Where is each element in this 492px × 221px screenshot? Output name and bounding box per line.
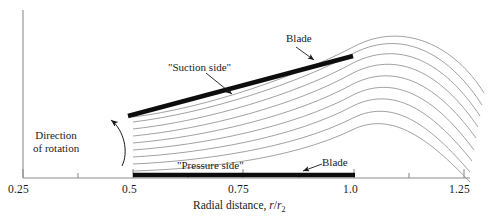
x-tick-label-4: 0.75: [228, 183, 249, 195]
direction-of-rotation-line1: Direction: [33, 129, 79, 142]
suction-side-label: "Suction side": [168, 61, 231, 73]
x-tick-label-2: 0.5: [122, 183, 137, 195]
x-axis-title-text: Radial distance,: [193, 199, 269, 211]
x-tick-label-0: 0.25: [8, 183, 29, 195]
x-tick-label-8: 1.25: [449, 183, 470, 195]
figure-canvas: 0.25 0.5 0.75 1.0 1.25 Radial distance, …: [0, 0, 492, 221]
x-axis-title: Radial distance, r/r2: [193, 199, 286, 214]
blade-bottom-leader-arrow: [303, 164, 322, 171]
direction-of-rotation-label: Direction of rotation: [33, 129, 79, 155]
x-axis-symbol-subscript: 2: [282, 205, 286, 214]
rotation-direction-arrow: [111, 120, 125, 166]
blade-top-label: Blade: [286, 32, 312, 44]
streamline: [133, 87, 474, 150]
blade-top-leader-arrow: [296, 47, 314, 60]
direction-of-rotation-line2: of rotation: [33, 142, 79, 155]
blade-bottom-label: Blade: [322, 156, 348, 168]
pressure-side-label: "Pressure side": [177, 159, 244, 171]
x-tick-label-6: 1.0: [343, 183, 358, 195]
